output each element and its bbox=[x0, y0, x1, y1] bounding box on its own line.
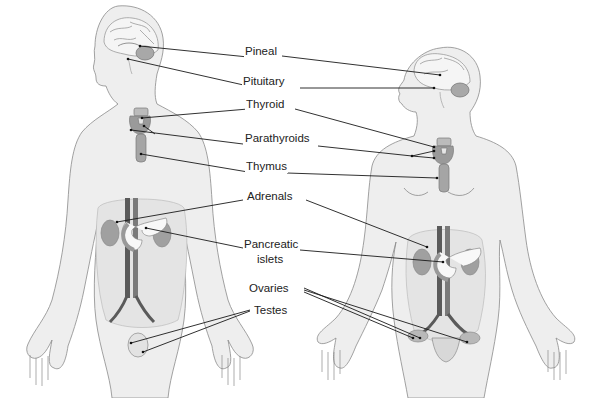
label-pancreatic: Pancreatic bbox=[243, 238, 299, 251]
label-testes: Testes bbox=[253, 304, 288, 317]
leader-female-thyroid bbox=[295, 109, 434, 147]
female-abdomen bbox=[406, 226, 485, 362]
leader-dot bbox=[433, 146, 436, 149]
leader-dot bbox=[412, 337, 415, 340]
leader-dot bbox=[426, 246, 429, 249]
leader-dot bbox=[433, 157, 436, 160]
leader-dot bbox=[433, 150, 436, 153]
leader-dot bbox=[142, 351, 145, 354]
leader-dot bbox=[140, 153, 143, 156]
leader-dot bbox=[127, 58, 130, 61]
leader-dot bbox=[411, 155, 414, 158]
leader-dot bbox=[433, 87, 436, 90]
leader-dot bbox=[143, 125, 146, 128]
leader-dot bbox=[139, 45, 142, 48]
leader-dot bbox=[130, 342, 133, 345]
leader-dot bbox=[419, 337, 422, 340]
leader-dot bbox=[141, 117, 144, 120]
endocrine-diagram: Pineal Pituitary Thyroid Parathyroids Th… bbox=[0, 0, 592, 398]
label-pituitary: Pituitary bbox=[242, 75, 286, 88]
label-ovaries: Ovaries bbox=[248, 282, 290, 295]
label-parathyroids: Parathyroids bbox=[244, 132, 311, 145]
diagram-canvas bbox=[0, 0, 592, 398]
leader-dot bbox=[130, 129, 133, 132]
leader-dot bbox=[466, 341, 469, 344]
leader-dot bbox=[442, 261, 445, 264]
leader-dot bbox=[116, 221, 119, 224]
leader-dot bbox=[436, 177, 439, 180]
label-thyroid: Thyroid bbox=[245, 98, 285, 111]
label-islets: islets bbox=[256, 253, 284, 266]
label-adrenals: Adrenals bbox=[246, 190, 293, 203]
label-pineal: Pineal bbox=[244, 45, 278, 58]
label-thymus: Thymus bbox=[245, 160, 288, 173]
leader-dot bbox=[145, 227, 148, 230]
leader-dot bbox=[439, 74, 442, 77]
